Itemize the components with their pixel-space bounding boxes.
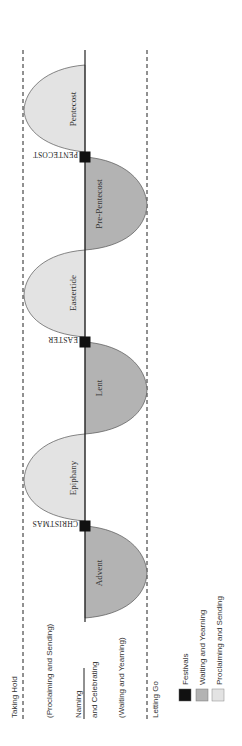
liturgical-year-diagram: Pentecost Pre-Pentecost Eastertide Lent … [0, 0, 242, 746]
legend-label-waiting: Waiting and Yearning [198, 610, 207, 685]
festival-label-easter: EASTER [48, 335, 78, 344]
season-label-eastertide: Eastertide [68, 275, 78, 311]
festival-marker-christmas [80, 521, 91, 532]
row-label-proclaiming: (Proclaiming and Sending) [45, 623, 54, 718]
legend-label-festivals: Festivals [181, 653, 190, 685]
season-label-pre-pentecost: Pre-Pentecost [94, 179, 104, 229]
season-label-epiphany: Epiphany [68, 460, 78, 495]
legend-swatch-waiting [196, 689, 208, 701]
festival-label-pentecost: PENTECOST [33, 150, 78, 159]
row-label-naming: Naming [74, 690, 83, 718]
festival-marker-easter [80, 337, 91, 348]
season-label-pentecost: Pentecost [68, 91, 78, 126]
season-label-lent: Lent [94, 379, 104, 396]
row-label-taking-hold: Taking Hold [10, 676, 19, 718]
legend-swatch-festivals [179, 689, 191, 701]
festival-marker-pentecost [80, 152, 91, 163]
festival-label-christmas: CHRISTMAS [32, 519, 78, 528]
row-label-celebrating: and Celebrating [90, 662, 99, 718]
legend-swatch-proclaiming [212, 689, 224, 701]
legend-label-proclaiming: Proclaiming and Sending [215, 596, 224, 685]
season-label-advent: Advent [94, 559, 104, 586]
legend: Festivals Waiting and Yearning Proclaimi… [179, 596, 224, 701]
row-label-waiting: (Waiting and Yearning) [117, 637, 126, 718]
row-label-letting-go: Letting Go [151, 681, 160, 718]
